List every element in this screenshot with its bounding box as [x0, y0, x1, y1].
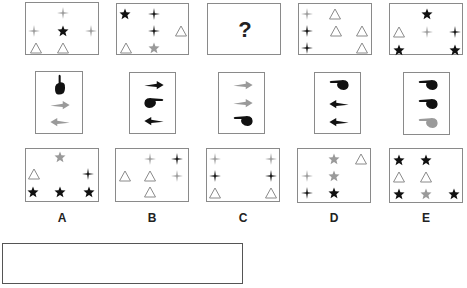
black-star-icon [421, 8, 433, 20]
gray-cross-icon [265, 153, 277, 165]
option-panel-c[interactable] [206, 148, 280, 202]
gray-star-icon [328, 170, 340, 182]
gray-triangle-icon [420, 171, 432, 183]
question-mark: ? [238, 17, 251, 43]
gray-star-icon [328, 153, 340, 165]
black-star-icon [393, 188, 405, 200]
gray-cross-icon [28, 25, 40, 37]
black-cross-icon [148, 8, 160, 20]
gray-star-icon [54, 151, 66, 163]
black-arrow-left-icon [328, 96, 350, 112]
black-arrow-left-icon [143, 113, 165, 129]
gray-arrow-left-icon [49, 114, 71, 130]
black-cross-icon [171, 153, 183, 165]
gray-triangle-icon [144, 170, 156, 182]
gray-star-icon [148, 42, 160, 54]
gray-cross-icon [301, 8, 313, 20]
option-label-b[interactable]: B [148, 211, 157, 225]
gray-cross-icon [421, 26, 433, 38]
arrow-panel-2 [129, 72, 176, 134]
gray-star-icon [420, 188, 432, 200]
gray-triangle-icon [356, 42, 368, 54]
black-hand-left-icon [328, 77, 350, 93]
black-star-icon [393, 154, 405, 166]
option-label-a[interactable]: A [58, 211, 67, 225]
black-star-icon [448, 188, 460, 200]
black-star-icon [393, 44, 405, 56]
black-cross-icon [301, 42, 313, 54]
gray-arrow-right-icon [232, 95, 254, 111]
option-panel-e[interactable] [389, 148, 463, 203]
black-star-icon [119, 8, 131, 20]
black-star-icon [27, 186, 39, 198]
black-arrow-right-icon [143, 77, 165, 93]
black-cross-icon [265, 170, 277, 182]
gray-cross-icon [301, 170, 313, 182]
arrow-panel-3 [218, 72, 265, 134]
arrow-panel-4 [314, 72, 361, 134]
gray-triangle-icon [329, 8, 341, 20]
gray-cross-icon [85, 25, 97, 37]
gray-triangle-icon [355, 153, 367, 165]
sequence-panel-5 [389, 3, 463, 55]
sequence-panel-3: ? [207, 3, 281, 55]
black-star-icon [420, 154, 432, 166]
gray-triangle-icon [30, 42, 42, 54]
gray-hand-left-icon [417, 115, 439, 131]
black-cross-icon [301, 25, 313, 37]
black-cross-icon [148, 25, 160, 37]
gray-triangle-icon [144, 186, 156, 198]
gray-triangle-icon [28, 168, 40, 180]
black-star-icon [57, 25, 69, 37]
black-hand-left-icon [232, 113, 254, 129]
black-hand-right-icon [143, 95, 165, 111]
gray-cross-icon [144, 153, 156, 165]
sequence-panel-1 [25, 2, 99, 55]
gray-arrow-right-icon [232, 77, 254, 93]
black-star-icon [54, 186, 66, 198]
gray-triangle-icon [393, 171, 405, 183]
black-star-icon [83, 186, 95, 198]
black-cross-icon [209, 170, 221, 182]
option-panel-b[interactable] [115, 148, 189, 202]
gray-triangle-icon [209, 187, 221, 199]
black-arrow-left-icon [328, 114, 350, 130]
gray-cross-icon [171, 170, 183, 182]
black-star-icon [328, 187, 340, 199]
black-cross-icon [82, 168, 94, 180]
gray-triangle-icon [356, 25, 368, 37]
option-label-e[interactable]: E [422, 211, 430, 225]
black-cross-icon [301, 187, 313, 199]
option-label-c[interactable]: C [239, 211, 248, 225]
arrow-panel-1 [35, 71, 83, 134]
gray-triangle-icon [265, 187, 277, 199]
gray-arrow-right-icon [49, 97, 71, 113]
option-label-d[interactable]: D [330, 211, 339, 225]
arrow-panel-5 [403, 72, 450, 135]
gray-triangle-icon [175, 25, 187, 37]
gray-triangle-icon [119, 170, 131, 182]
black-hand-left-icon [417, 77, 439, 93]
option-panel-d[interactable] [297, 148, 371, 203]
option-panel-a[interactable] [25, 148, 99, 202]
sequence-panel-4 [298, 3, 372, 55]
gray-cross-icon [209, 153, 221, 165]
gray-triangle-icon [120, 42, 132, 54]
gray-triangle-icon [330, 25, 342, 37]
sequence-panel-2 [116, 3, 189, 55]
gray-triangle-icon [57, 42, 69, 54]
black-hand-left-icon [417, 96, 439, 112]
gray-cross-icon [57, 7, 69, 19]
answer-input-box[interactable] [2, 243, 243, 284]
black-star-icon [449, 44, 461, 56]
black-hand-up-icon [53, 74, 67, 96]
black-cross-icon [449, 26, 461, 38]
gray-triangle-icon [393, 26, 405, 38]
